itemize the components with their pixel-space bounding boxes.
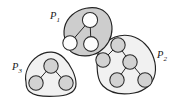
node-p3-3[interactable] (59, 76, 73, 90)
group-p1[interactable]: P1 (49, 8, 112, 56)
partition-diagram: P3 P2 (0, 0, 176, 106)
node-p2-3[interactable] (123, 55, 137, 69)
node-p3-2[interactable] (29, 76, 43, 90)
node-p1-3[interactable] (84, 37, 99, 52)
node-p2-4[interactable] (110, 73, 124, 87)
group-label-p2: P2 (156, 49, 167, 63)
node-p1-2[interactable] (63, 36, 77, 50)
diagram-canvas: P3 P2 (0, 0, 176, 106)
node-p3-1[interactable] (44, 59, 58, 73)
node-p1-1[interactable] (82, 12, 97, 27)
group-label-p3-sub: 3 (17, 67, 22, 75)
node-p2-1[interactable] (111, 38, 125, 52)
group-label-p2-sub: 2 (163, 55, 167, 63)
group-label-p1-sub: 1 (56, 16, 60, 24)
group-label-p1: P1 (49, 10, 60, 24)
group-p3[interactable]: P3 (11, 52, 76, 96)
group-label-p3: P3 (11, 61, 22, 75)
node-p2-5[interactable] (138, 73, 152, 87)
node-p2-2[interactable] (96, 53, 110, 67)
